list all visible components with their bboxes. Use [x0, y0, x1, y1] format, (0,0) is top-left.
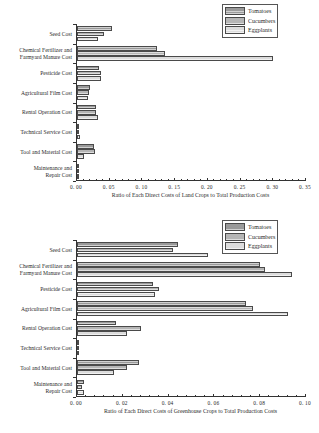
- x-axis-minor-tick: [266, 179, 267, 181]
- x-axis-minor-tick: [158, 395, 159, 397]
- y-axis-category-label: Maintenance andRepair Cost: [34, 165, 72, 178]
- x-axis-tick-label: 0. 06: [208, 400, 220, 406]
- x-axis-minor-tick: [148, 179, 149, 181]
- x-axis-minor-tick: [226, 179, 227, 181]
- x-axis-minor-tick: [298, 179, 299, 181]
- bar-eggplants-chemical-fertilizer-and-farmyard-manure-cost: [77, 56, 273, 61]
- y-axis-tick: [73, 299, 76, 300]
- x-axis-minor-tick: [140, 395, 141, 397]
- y-axis-tick: [73, 181, 76, 182]
- y-axis-tick: [73, 44, 76, 45]
- x-axis-minor-tick: [186, 395, 187, 397]
- y-axis-category-label: Rental Operation Cost: [22, 325, 72, 331]
- x-axis-minor-tick: [213, 179, 214, 181]
- y-axis-category-label: Rental Operation Cost: [22, 109, 72, 115]
- y-axis-tick: [73, 103, 76, 104]
- bar-cucumbers-chemical-fertilizer-and-farmyard-manure-cost: [77, 51, 165, 56]
- chart-panel-greenhouse-crops: 0. 000. 020. 040. 060. 080. 10Ratio of E…: [0, 216, 319, 433]
- x-axis-tick: [305, 178, 306, 181]
- bar-eggplants-technical-service-cost: [77, 351, 79, 356]
- legend-item-eggplants[interactable]: Eggplants: [225, 242, 275, 252]
- legend-label: Eggplants: [248, 243, 272, 249]
- x-axis-minor-tick: [250, 395, 251, 397]
- x-axis-minor-tick: [135, 179, 136, 181]
- x-axis-minor-tick: [83, 179, 84, 181]
- bar-cucumbers-rental-operation-cost: [77, 110, 96, 115]
- y-axis-category-label: Technical Service Cost: [21, 129, 73, 135]
- x-axis-title: Ratio of Each Direct Costs of Greenhouse…: [104, 408, 277, 414]
- bar-tomatoes-maintenance-and-repair-cost: [77, 380, 84, 385]
- bar-eggplants-rental-operation-cost: [77, 331, 127, 336]
- bar-tomatoes-maintenance-and-repair-cost: [77, 164, 79, 169]
- x-axis-minor-tick: [177, 395, 178, 397]
- bar-cucumbers-agricultural-film-cost: [77, 90, 89, 95]
- legend-label: Tomatoes: [248, 8, 271, 14]
- y-axis-tick: [73, 142, 76, 143]
- x-axis-tick: [259, 394, 260, 397]
- legend-greenhouse-crops: TomatoesCucumbersEggplants: [222, 220, 278, 254]
- y-axis-category-label: Agricultural Film Cost: [21, 305, 72, 311]
- x-axis-line: [76, 396, 305, 397]
- y-axis-category-label: Seed Cost: [49, 247, 72, 253]
- x-axis-tick-label: 0. 20: [201, 184, 213, 190]
- y-axis-tick: [73, 83, 76, 84]
- x-axis-minor-tick: [155, 179, 156, 181]
- x-axis-minor-tick: [259, 179, 260, 181]
- x-axis-tick-label: 0. 10: [136, 184, 148, 190]
- x-axis-minor-tick: [102, 179, 103, 181]
- y-axis-tick: [73, 260, 76, 261]
- y-axis-category-label: Chemical Fertilizer andFarmyard Manure C…: [19, 47, 72, 60]
- x-axis-minor-tick: [168, 179, 169, 181]
- x-axis-tick: [305, 394, 306, 397]
- bar-eggplants-agricultural-film-cost: [77, 96, 88, 101]
- plot-area-greenhouse-crops: 0. 000. 020. 040. 060. 080. 10Ratio of E…: [76, 240, 305, 397]
- chart-panel-land-crops: 0. 000. 050. 100. 150. 200. 250. 300. 35…: [0, 0, 319, 216]
- x-axis-minor-tick: [187, 179, 188, 181]
- bar-eggplants-maintenance-and-repair-cost: [77, 174, 79, 179]
- y-axis-tick: [73, 122, 76, 123]
- bar-cucumbers-chemical-fertilizer-and-farmyard-manure-cost: [77, 267, 265, 272]
- x-axis-tick: [174, 178, 175, 181]
- x-axis-tick: [240, 178, 241, 181]
- x-axis-minor-tick: [131, 395, 132, 397]
- legend-label: Cucumbers: [248, 234, 275, 240]
- legend-item-cucumbers[interactable]: Cucumbers: [225, 16, 275, 26]
- legend-item-cucumbers[interactable]: Cucumbers: [225, 232, 275, 242]
- y-axis-tick: [73, 240, 76, 241]
- legend-swatch-tomatoes: [225, 7, 245, 15]
- bar-tomatoes-agricultural-film-cost: [77, 85, 90, 90]
- bar-cucumbers-tool-and-material-cost: [77, 149, 95, 154]
- bar-tomatoes-seed-cost: [77, 26, 112, 31]
- bar-tomatoes-tool-and-material-cost: [77, 360, 139, 365]
- x-axis-minor-tick: [287, 395, 288, 397]
- x-axis-minor-tick: [241, 395, 242, 397]
- y-axis-category-label: Pesticide Cost: [40, 70, 72, 76]
- y-axis-tick: [73, 397, 76, 398]
- x-axis-tick: [272, 178, 273, 181]
- legend-swatch-eggplants: [225, 26, 245, 34]
- x-axis-minor-tick: [103, 395, 104, 397]
- bar-cucumbers-maintenance-and-repair-cost: [77, 169, 79, 174]
- x-axis-minor-tick: [233, 179, 234, 181]
- bar-tomatoes-tool-and-material-cost: [77, 144, 94, 149]
- bar-cucumbers-seed-cost: [77, 248, 173, 253]
- x-axis-minor-tick: [279, 179, 280, 181]
- legend-item-eggplants[interactable]: Eggplants: [225, 26, 275, 36]
- legend-item-tomatoes[interactable]: Tomatoes: [225, 7, 275, 17]
- x-axis-minor-tick: [89, 179, 90, 181]
- x-axis-tick-label: 0. 15: [168, 184, 180, 190]
- bar-cucumbers-pesticide-cost: [77, 287, 159, 292]
- y-axis-tick: [73, 358, 76, 359]
- bar-cucumbers-pesticide-cost: [77, 71, 101, 76]
- legend-item-tomatoes[interactable]: Tomatoes: [225, 223, 275, 233]
- x-axis-tick-label: 0. 05: [103, 184, 115, 190]
- bar-eggplants-tool-and-material-cost: [77, 370, 114, 375]
- legend-land-crops: TomatoesCucumbersEggplants: [222, 4, 278, 38]
- x-axis-minor-tick: [115, 179, 116, 181]
- x-axis-minor-tick: [113, 395, 114, 397]
- x-axis-tick-label: 0. 25: [234, 184, 246, 190]
- x-axis-minor-tick: [122, 179, 123, 181]
- bar-cucumbers-technical-service-cost: [77, 130, 79, 135]
- y-axis-tick: [73, 319, 76, 320]
- x-axis-tick-label: 0. 00: [70, 400, 82, 406]
